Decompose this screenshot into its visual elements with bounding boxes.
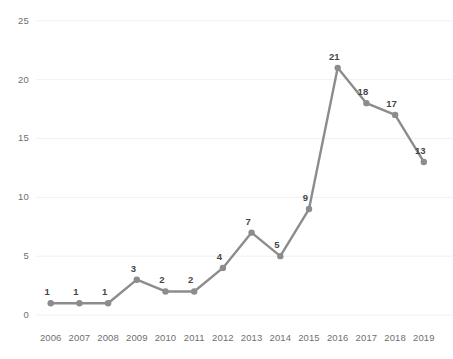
data-point-label: 13	[409, 146, 431, 156]
data-point-marker	[48, 300, 54, 306]
data-point-label: 9	[295, 193, 317, 203]
x-axis-tick-label: 2018	[380, 332, 410, 343]
x-axis-tick-label: 2011	[179, 332, 209, 343]
x-axis-tick-label: 2010	[151, 332, 181, 343]
x-axis-tick-label: 2019	[409, 332, 439, 343]
data-point-marker	[421, 159, 427, 165]
data-point-label: 1	[94, 287, 116, 297]
x-axis-tick-label: 2017	[351, 332, 381, 343]
data-point-label: 4	[208, 252, 230, 262]
y-axis-tick-label: 15	[3, 133, 29, 143]
data-point-marker	[335, 65, 341, 71]
data-point-label: 1	[65, 287, 87, 297]
data-point-marker	[306, 206, 312, 212]
gridlines	[36, 21, 453, 315]
data-point-marker	[392, 112, 398, 118]
data-point-label: 17	[381, 99, 403, 109]
y-axis-tick-label: 20	[3, 75, 29, 85]
data-point-label: 1	[36, 287, 58, 297]
x-axis-tick-label: 2014	[265, 332, 295, 343]
x-axis-tick-label: 2016	[323, 332, 353, 343]
x-axis-tick-label: 2012	[208, 332, 238, 343]
chart-plot-area	[0, 0, 453, 359]
x-axis-tick-label: 2007	[64, 332, 94, 343]
data-point-marker	[191, 288, 197, 294]
y-axis-tick-label: 10	[3, 192, 29, 202]
data-point-marker	[363, 100, 369, 106]
y-axis-tick-label: 0	[3, 310, 29, 320]
data-point-label: 7	[237, 217, 259, 227]
x-axis-tick-label: 2006	[36, 332, 66, 343]
x-axis-tick-label: 2008	[93, 332, 123, 343]
data-point-marker	[134, 276, 140, 282]
x-axis-tick-label: 2013	[237, 332, 267, 343]
y-axis-tick-label: 25	[3, 16, 29, 26]
data-point-marker	[162, 288, 168, 294]
data-point-label: 2	[180, 275, 202, 285]
data-point-label: 5	[266, 240, 288, 250]
data-point-markers	[48, 65, 427, 307]
data-point-label: 2	[151, 275, 173, 285]
data-point-label: 18	[352, 87, 374, 97]
data-point-label: 3	[122, 264, 144, 274]
data-point-marker	[220, 265, 226, 271]
y-axis-tick-label: 5	[3, 251, 29, 261]
x-axis-tick-label: 2009	[122, 332, 152, 343]
data-point-marker	[76, 300, 82, 306]
data-point-marker	[248, 229, 254, 235]
data-point-marker	[105, 300, 111, 306]
x-axis-tick-label: 2015	[294, 332, 324, 343]
data-point-label: 21	[323, 52, 345, 62]
data-point-marker	[277, 253, 283, 259]
line-chart: 0510152025 20062007200820092010201120122…	[0, 0, 453, 359]
